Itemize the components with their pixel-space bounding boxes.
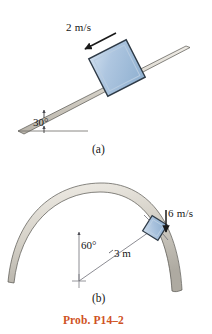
radius-label: 3 m bbox=[114, 248, 131, 259]
angle-tick-b bbox=[109, 250, 113, 253]
part-label-a: (a) bbox=[92, 144, 105, 156]
velocity-label-a: 2 m/s bbox=[66, 22, 91, 33]
incline-angle-label: 30° bbox=[33, 117, 48, 128]
part-b-group bbox=[8, 183, 182, 292]
figure-caption: Prob. P14–2 bbox=[63, 315, 124, 327]
part-label-b: (b) bbox=[92, 293, 105, 305]
block-body bbox=[89, 40, 145, 96]
block-on-incline bbox=[89, 40, 145, 96]
dome-angle-label: 60° bbox=[81, 240, 96, 251]
figure-graphics bbox=[0, 0, 212, 334]
physics-figure: 2 m/s 30° (a) 60° 3 m 6 m/s (b) Prob. P1… bbox=[0, 0, 212, 334]
velocity-label-b: 6 m/s bbox=[168, 208, 193, 219]
